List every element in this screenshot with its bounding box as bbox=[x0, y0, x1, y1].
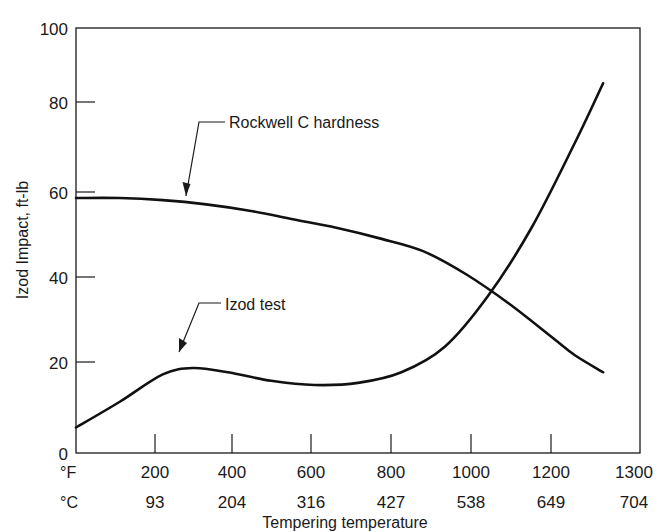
x-unit-fahrenheit-label: °F bbox=[60, 464, 76, 481]
x-tick-label-c-204: 204 bbox=[218, 493, 246, 512]
x-tick-label-f-400: 400 bbox=[218, 463, 246, 482]
y-tick-label-80: 80 bbox=[49, 94, 68, 113]
y-tick-label-0: 0 bbox=[59, 445, 68, 464]
curve-izod-test bbox=[76, 83, 603, 427]
x-tick-label-f-800: 800 bbox=[377, 463, 405, 482]
x-axis-title: Tempering temperature bbox=[262, 514, 428, 531]
x-tick-label-f-600: 600 bbox=[297, 463, 325, 482]
x-tick-label-f-1000: 1000 bbox=[452, 463, 490, 482]
plot-frame bbox=[76, 28, 640, 453]
y-tick-label-20: 20 bbox=[49, 354, 68, 373]
y-axis-tick-labels: 100 80 60 40 20 0 bbox=[40, 20, 68, 464]
annotation-rockwell-c-hardness: Rockwell C hardness bbox=[183, 114, 380, 196]
x-tick-label-c-649: 649 bbox=[537, 493, 565, 512]
izod-impact-chart: 100 80 60 40 20 0 Izod Impact, ft-lb °F … bbox=[0, 0, 666, 532]
x-tick-label-f-1200: 1200 bbox=[532, 463, 570, 482]
x-tick-label-c-93: 93 bbox=[146, 493, 165, 512]
x-tick-label-c-704: 704 bbox=[620, 493, 648, 512]
x-tick-label-c-538: 538 bbox=[457, 493, 485, 512]
annotation-label-izod: Izod test bbox=[225, 296, 286, 313]
x-axis-tick-labels-fahrenheit: 200 400 600 800 1000 1200 1300 bbox=[141, 463, 653, 482]
x-axis-ticks bbox=[155, 434, 551, 453]
arrow-head-rockwell-icon bbox=[183, 182, 191, 196]
y-axis-title: Izod Impact, ft-lb bbox=[14, 181, 31, 299]
arrow-head-izod-icon bbox=[179, 338, 187, 352]
chart-canvas: 100 80 60 40 20 0 Izod Impact, ft-lb °F … bbox=[0, 0, 666, 532]
x-tick-label-c-427: 427 bbox=[377, 493, 405, 512]
y-tick-label-100: 100 bbox=[40, 20, 68, 39]
x-axis-tick-labels-celsius: 93 204 316 427 538 649 704 bbox=[146, 493, 649, 512]
y-tick-label-40: 40 bbox=[49, 269, 68, 288]
annotation-izod-test: Izod test bbox=[179, 296, 286, 352]
x-tick-label-f-200: 200 bbox=[141, 463, 169, 482]
x-tick-label-c-316: 316 bbox=[297, 493, 325, 512]
annotation-label-rockwell: Rockwell C hardness bbox=[229, 114, 379, 131]
leader-line-rockwell bbox=[186, 122, 225, 196]
x-tick-label-f-1300: 1300 bbox=[615, 463, 653, 482]
x-unit-celsius-label: °C bbox=[60, 494, 78, 511]
y-tick-label-60: 60 bbox=[49, 184, 68, 203]
y-axis-ticks bbox=[76, 102, 95, 362]
curve-rockwell-c-hardness bbox=[76, 198, 603, 372]
